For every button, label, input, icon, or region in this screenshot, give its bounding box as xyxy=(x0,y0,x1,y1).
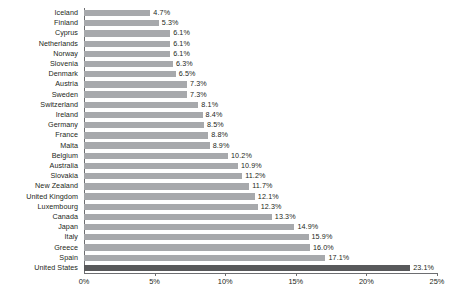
category-label: Sweden xyxy=(52,91,78,98)
bar-value-label: 8.5% xyxy=(207,122,224,129)
category-label: Spain xyxy=(59,254,78,261)
bar-value-label: 6.1% xyxy=(173,50,190,57)
tick-label: 5% xyxy=(149,278,160,285)
category-label: Belgium xyxy=(52,152,78,159)
bar xyxy=(84,193,255,199)
bar xyxy=(84,204,258,210)
category-label: Austria xyxy=(55,81,78,88)
bar-row: 6.1% xyxy=(84,51,437,57)
bar-value-label: 15.9% xyxy=(312,234,333,241)
bar-value-label: 8.1% xyxy=(201,101,218,108)
bar-row: 8.1% xyxy=(84,102,437,108)
category-label: Cyprus xyxy=(55,30,78,37)
category-label: United States xyxy=(34,264,78,271)
bar xyxy=(84,122,204,128)
bar xyxy=(84,244,310,250)
category-label: Australia xyxy=(50,162,78,169)
bar xyxy=(84,41,170,47)
bar-row: 6.5% xyxy=(84,71,437,77)
bar xyxy=(84,142,210,148)
bar-value-label: 5.3% xyxy=(162,20,179,27)
bar xyxy=(84,51,170,57)
bar-row: 23.1% xyxy=(84,265,437,271)
category-label: United Kingdom xyxy=(26,193,78,200)
bar-row: 17.1% xyxy=(84,255,437,261)
bar xyxy=(84,10,150,16)
bar-value-label: 8.4% xyxy=(206,111,223,118)
bar-value-label: 12.3% xyxy=(261,203,282,210)
bar-value-label: 10.2% xyxy=(231,152,252,159)
bar-row: 15.9% xyxy=(84,234,437,240)
plot-area: 4.7%5.3%6.1%6.1%6.1%6.3%6.5%7.3%7.3%8.1%… xyxy=(84,8,437,273)
tick-mark xyxy=(296,273,297,276)
tick-label: 20% xyxy=(359,278,374,285)
bar-row: 8.9% xyxy=(84,142,437,148)
bar xyxy=(84,132,208,138)
bar-value-label: 8.9% xyxy=(213,142,230,149)
bar-row: 12.3% xyxy=(84,204,437,210)
bar xyxy=(84,255,325,261)
bar-row: 16.0% xyxy=(84,244,437,250)
category-label: Iceland xyxy=(54,9,78,16)
tick-mark xyxy=(437,273,438,276)
bar xyxy=(84,214,272,220)
category-label: Malta xyxy=(60,142,78,149)
category-label: France xyxy=(55,132,78,139)
bar xyxy=(84,81,187,87)
bar xyxy=(84,91,187,97)
bar-value-label: 6.5% xyxy=(179,71,196,78)
bar xyxy=(84,265,410,271)
bar-value-label: 7.3% xyxy=(190,81,207,88)
bar-value-label: 16.0% xyxy=(313,244,334,251)
tick-label: 10% xyxy=(218,278,233,285)
bar xyxy=(84,183,249,189)
bar-row: 7.3% xyxy=(84,91,437,97)
bar-row: 8.8% xyxy=(84,132,437,138)
bar-value-label: 14.9% xyxy=(297,224,318,231)
bar-row: 6.1% xyxy=(84,30,437,36)
bar-value-label: 6.1% xyxy=(173,40,190,47)
bar xyxy=(84,102,198,108)
bar-value-label: 11.7% xyxy=(252,183,272,190)
category-label: Slovenia xyxy=(50,60,78,67)
bar-row: 10.9% xyxy=(84,163,437,169)
tick-mark xyxy=(225,273,226,276)
bar-chart: IcelandFinlandCyprusNetherlandsNorwaySlo… xyxy=(0,0,456,301)
category-label: Slovakia xyxy=(50,173,78,180)
category-label: Luxembourg xyxy=(38,203,78,210)
category-label: Japan xyxy=(58,224,78,231)
tick-label: 0% xyxy=(79,278,90,285)
category-label: Finland xyxy=(54,20,78,27)
category-label: Greece xyxy=(54,244,78,251)
tick-mark xyxy=(155,273,156,276)
x-axis-ticks: 0%5%10%15%20%25% xyxy=(84,273,437,293)
category-label: Germany xyxy=(48,122,78,129)
bar xyxy=(84,112,203,118)
bar xyxy=(84,173,242,179)
bar-value-label: 13.3% xyxy=(275,213,296,220)
category-label: Canada xyxy=(53,213,78,220)
bar-row: 11.2% xyxy=(84,173,437,179)
category-label: Ireland xyxy=(56,111,78,118)
category-label: Switzerland xyxy=(40,101,78,108)
bar-value-label: 10.9% xyxy=(241,162,262,169)
bar xyxy=(84,153,228,159)
bar-row: 10.2% xyxy=(84,153,437,159)
bar xyxy=(84,224,294,230)
bar-row: 13.3% xyxy=(84,214,437,220)
bar xyxy=(84,20,159,26)
bar-value-label: 11.2% xyxy=(245,173,265,180)
bar-row: 6.1% xyxy=(84,41,437,47)
tick-label: 15% xyxy=(288,278,303,285)
bar xyxy=(84,163,238,169)
bar-row: 6.3% xyxy=(84,61,437,67)
bar xyxy=(84,71,176,77)
bar-value-label: 4.7% xyxy=(153,9,170,16)
bar-row: 8.5% xyxy=(84,122,437,128)
bar xyxy=(84,30,170,36)
bar-row: 12.1% xyxy=(84,193,437,199)
bar-value-label: 8.8% xyxy=(211,132,228,139)
bar-row: 8.4% xyxy=(84,112,437,118)
bar xyxy=(84,61,173,67)
bar-value-label: 6.1% xyxy=(173,30,190,37)
